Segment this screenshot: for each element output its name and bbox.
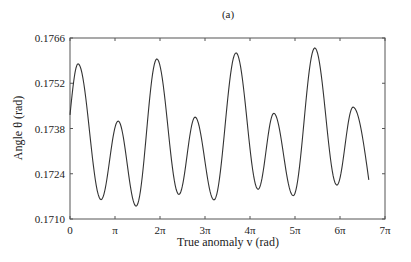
- x-tick-label: 7π: [379, 224, 391, 236]
- y-tick-label: 0.1738: [35, 123, 66, 135]
- y-tick-label: 0.1752: [35, 77, 65, 89]
- y-tick-label: 0.1724: [35, 168, 66, 180]
- plot-frame: [70, 38, 385, 219]
- x-tick-label: 6π: [334, 224, 346, 236]
- chart: (a) 0π2π3π4π5π6π7π 0.17100.17240.17380.1…: [0, 0, 411, 262]
- x-tick-label: π: [112, 224, 118, 236]
- x-tick-label: 5π: [289, 224, 301, 236]
- x-axis-title: True anomaly v (rad): [177, 235, 279, 249]
- y-tick-label: 0.1710: [35, 213, 66, 225]
- chart-title: (a): [222, 8, 235, 21]
- x-axis: 0π2π3π4π5π6π7π: [67, 38, 391, 236]
- series-line-theta: [70, 48, 369, 206]
- y-tick-label: 0.1766: [35, 32, 66, 44]
- y-axis: 0.17100.17240.17380.17520.1766: [35, 32, 385, 225]
- x-tick-label: 2π: [154, 224, 166, 236]
- x-tick-label: 0: [67, 224, 73, 236]
- y-axis-title: Angle θ (rad): [11, 96, 25, 160]
